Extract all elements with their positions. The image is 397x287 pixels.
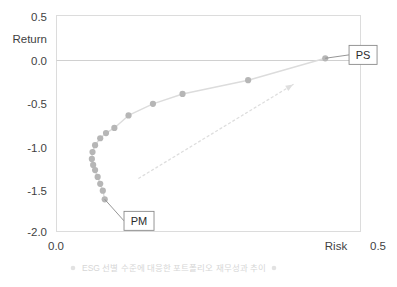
data-point (150, 101, 156, 107)
x-tick-label-0: 0.0 (48, 240, 64, 252)
data-point (245, 77, 251, 83)
y-tick-label-0: 0.5 (31, 11, 47, 23)
y-tick-label-2: -0.5 (27, 98, 47, 110)
risk-return-scatter-chart: 0.5 0.0 -0.5 -1.0 -1.5 -2.0 Return 0.0 0… (0, 0, 397, 287)
data-point (125, 112, 131, 118)
y-tick-label-5: -2.0 (27, 226, 47, 238)
data-point (95, 174, 101, 180)
data-point (92, 142, 98, 148)
data-point (97, 135, 103, 141)
data-point (111, 125, 117, 131)
x-axis-title: Risk (325, 240, 348, 252)
data-point (97, 181, 103, 187)
chart-legend: ESG 선별 수준에 대응한 포트폴리오 재무성과 추이 (71, 263, 277, 273)
legend-label: ESG 선별 수준에 대응한 포트폴리오 재무성과 추이 (82, 263, 266, 273)
data-point (89, 149, 95, 155)
chart-container: 0.5 0.0 -0.5 -1.0 -1.5 -2.0 Return 0.0 0… (0, 0, 397, 287)
callout-ps-label: PS (356, 49, 371, 61)
legend-dot-marker-left (71, 266, 76, 271)
data-point (90, 162, 96, 168)
data-point (179, 91, 185, 97)
data-point (100, 188, 106, 194)
callout-pm-label: PM (131, 215, 148, 227)
y-tick-label-4: -1.5 (27, 185, 47, 197)
y-axis-title: Return (12, 33, 47, 45)
data-point (103, 130, 109, 136)
legend-dot-marker-right (272, 266, 277, 271)
x-tick-label-1: 0.5 (370, 240, 386, 252)
y-tick-label-1: 0.0 (31, 55, 47, 67)
y-tick-label-3: -1.0 (27, 142, 47, 154)
data-point (89, 156, 95, 162)
